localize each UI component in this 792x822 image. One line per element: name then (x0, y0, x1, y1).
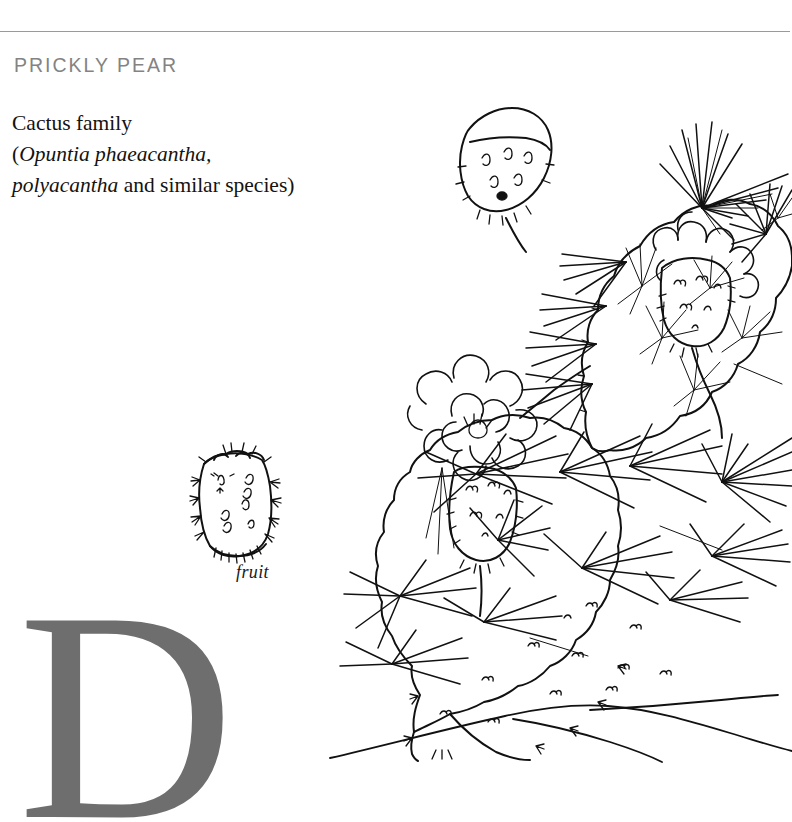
fruit-illustration (180, 436, 290, 566)
species-name-2: polyacantha (12, 173, 118, 197)
species-suffix: and similar species) (118, 173, 294, 197)
flower-left (408, 355, 537, 616)
binomial-line-2: polyacantha and similar species) (12, 170, 352, 201)
fruit-caption: fruit (236, 562, 269, 583)
cactus-bud (456, 108, 554, 252)
drop-cap-letter: D (18, 566, 235, 822)
flower-right (653, 212, 758, 438)
cactus-illustration (330, 38, 792, 780)
page-title: PRICKLY PEAR (14, 54, 178, 77)
species-name-1: Opuntia phaeacantha, (19, 142, 211, 166)
binomial-line-1: (Opuntia phaeacantha, (12, 139, 352, 170)
family-line: Cactus family (12, 108, 352, 139)
species-description: Cactus family (Opuntia phaeacantha, poly… (12, 108, 352, 201)
header-rule (0, 31, 790, 32)
